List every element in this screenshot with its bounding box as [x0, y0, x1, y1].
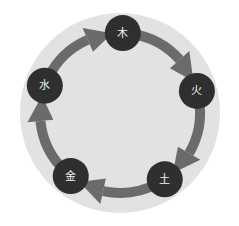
element-node-label: 火 [191, 84, 202, 97]
element-node-label: 木 [117, 27, 128, 40]
element-node-label: 土 [159, 173, 170, 186]
element-node-fire: 火 [179, 73, 215, 109]
element-node-earth: 土 [147, 161, 183, 197]
element-node-water: 水 [27, 68, 63, 104]
five-elements-diagram: 木火土金水 [0, 0, 239, 226]
element-node-metal: 金 [53, 158, 89, 194]
element-node-label: 金 [65, 169, 76, 183]
element-node-label: 水 [39, 79, 50, 92]
element-node-wood: 木 [105, 15, 141, 51]
